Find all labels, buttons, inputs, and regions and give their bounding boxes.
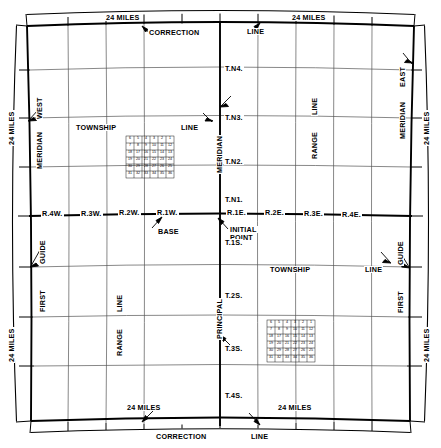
- section-cell: 32: [275, 356, 283, 360]
- section-cell: 9: [283, 328, 291, 332]
- section-cell: 10: [150, 144, 158, 148]
- range-west-4: R.1W.: [156, 209, 179, 216]
- section-cell: 11: [299, 328, 307, 332]
- section-cell: 11: [158, 144, 166, 148]
- top-left-dimension: 24 MILES: [105, 14, 141, 21]
- section-cell: 29: [275, 349, 283, 353]
- left-upper-dimension: 24 MILES: [8, 110, 15, 146]
- left-first-label: FIRST: [39, 289, 46, 313]
- section-cell: 21: [283, 342, 291, 346]
- top-line-label: LINE: [246, 28, 265, 35]
- section-cell: 36: [166, 172, 174, 176]
- section-cell: 5: [275, 321, 283, 325]
- section-cell: 15: [291, 335, 299, 339]
- range-west-1: R.4W.: [41, 210, 64, 217]
- section-cell: 16: [142, 151, 150, 155]
- line-label-sw: LINE: [116, 294, 123, 313]
- section-cell: 33: [142, 172, 150, 176]
- section-cell: 17: [275, 335, 283, 339]
- section-cell: 14: [158, 151, 166, 155]
- township-south-4: T.4S.: [224, 392, 243, 399]
- section-cell: 7: [267, 328, 275, 332]
- right-first-label: FIRST: [397, 290, 404, 314]
- center-meridian-label: MERIDIAN: [216, 135, 223, 174]
- section-cell: 20: [134, 158, 142, 162]
- section-cell: 26: [158, 165, 166, 169]
- bottom-left-dimension: 24 MILES: [126, 404, 162, 411]
- range-east-3: R.3E.: [303, 210, 324, 217]
- section-cell: 12: [166, 144, 174, 148]
- section-cell: 15: [150, 151, 158, 155]
- range-west-2: R.3W.: [80, 210, 103, 217]
- section-cell: 3: [150, 137, 158, 141]
- section-cell: 19: [267, 342, 275, 346]
- left-lower-dimension: 24 MILES: [8, 327, 15, 363]
- township-label-se: TOWNSHIP: [269, 266, 311, 273]
- section-cell: 25: [166, 165, 174, 169]
- left-guide-meridian: [27, 26, 32, 421]
- section-cell: 6: [126, 137, 134, 141]
- range-west-3: R.2W.: [118, 209, 141, 216]
- township-north-4: T.N1.: [224, 196, 244, 203]
- section-cell: 17: [134, 151, 142, 155]
- section-cell: 35: [299, 356, 307, 360]
- section-cell: 35: [158, 172, 166, 176]
- section-cell: 28: [142, 165, 150, 169]
- section-cell: 18: [267, 335, 275, 339]
- section-cell: 8: [275, 328, 283, 332]
- township-south-1: T.1S.: [224, 239, 243, 246]
- right-east-label: EAST: [399, 66, 406, 88]
- section-cell: 14: [299, 335, 307, 339]
- section-cell: 25: [307, 349, 315, 353]
- township-north-1: T.N4.: [224, 65, 244, 72]
- section-cell: 13: [307, 335, 315, 339]
- section-cell: 19: [126, 158, 134, 162]
- section-cell: 5: [134, 137, 142, 141]
- section-cell: 24: [307, 342, 315, 346]
- section-cell: 16: [283, 335, 291, 339]
- range-east-4: R.4E.: [341, 211, 362, 218]
- section-cell: 34: [150, 172, 158, 176]
- section-cell: 28: [283, 349, 291, 353]
- section-cell: 4: [283, 321, 291, 325]
- left-west-label: WEST: [36, 96, 43, 120]
- township-north-2: T.N3.: [224, 114, 244, 121]
- section-cell: 30: [126, 165, 134, 169]
- plss-svg: [0, 0, 441, 448]
- bottom-right-dimension: 24 MILES: [277, 404, 313, 411]
- section-cell: 24: [166, 158, 174, 162]
- base-label: BASE: [157, 228, 180, 235]
- section-cell: 22: [150, 158, 158, 162]
- section-cell: 9: [142, 144, 150, 148]
- section-cell: 8: [134, 144, 142, 148]
- section-cell: 2: [158, 137, 166, 141]
- section-cell: 29: [134, 165, 142, 169]
- section-cell: 30: [267, 349, 275, 353]
- line-label-ne: LINE: [311, 97, 318, 116]
- left-guide-label: GUIDE: [39, 239, 46, 265]
- section-cell: 2: [299, 321, 307, 325]
- range-label-ne: RANGE: [311, 131, 318, 160]
- section-cell: 1: [307, 321, 315, 325]
- township-south-3: T.3S.: [224, 345, 243, 352]
- section-cell: 31: [267, 356, 275, 360]
- section-cell: 6: [267, 321, 275, 325]
- top-correction-label: CORRECTION: [148, 29, 200, 36]
- section-cell: 32: [134, 172, 142, 176]
- top-right-dimension: 24 MILES: [291, 14, 327, 21]
- township-north-3: T.N2.: [224, 158, 244, 165]
- section-cell: 23: [158, 158, 166, 162]
- section-cell: 27: [150, 165, 158, 169]
- section-cell: 4: [142, 137, 150, 141]
- section-cell: 7: [126, 144, 134, 148]
- section-cell: 1: [166, 137, 174, 141]
- line-label-nw: LINE: [180, 124, 199, 131]
- section-cell: 26: [299, 349, 307, 353]
- right-guide-label: GUIDE: [397, 240, 404, 266]
- township-south-2: T.2S.: [224, 292, 243, 299]
- range-east-2: R.2E.: [264, 209, 285, 216]
- range-label-sw: RANGE: [116, 328, 123, 357]
- range-east-1: R.1E.: [226, 209, 247, 216]
- bottom-line-label: LINE: [250, 433, 269, 440]
- section-cell: 12: [307, 328, 315, 332]
